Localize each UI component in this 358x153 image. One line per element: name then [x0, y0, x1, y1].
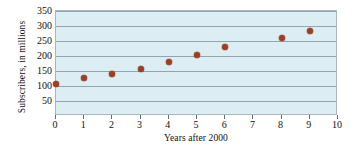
data-point: [222, 44, 228, 50]
x-tick-label: 8: [269, 119, 293, 130]
x-tick-mark: [196, 115, 197, 119]
gridline: [56, 11, 336, 12]
x-tick-mark: [309, 115, 310, 119]
x-axis-title: Years after 2000: [55, 133, 337, 143]
x-tick-label: 4: [156, 119, 180, 130]
data-point: [307, 28, 313, 34]
x-tick-mark: [337, 115, 338, 119]
x-tick-label: 5: [184, 119, 208, 130]
y-tick-label: 250: [22, 35, 52, 46]
gridline: [56, 71, 336, 72]
data-point: [166, 59, 172, 65]
plot-area: [55, 10, 337, 115]
gridline: [56, 41, 336, 42]
y-tick-label: 100: [22, 80, 52, 91]
x-tick-label: 9: [297, 119, 321, 130]
y-tick-label: 150: [22, 65, 52, 76]
data-point: [53, 81, 59, 87]
x-tick-mark: [140, 115, 141, 119]
data-point: [279, 35, 285, 41]
x-tick-mark: [168, 115, 169, 119]
x-tick-mark: [224, 115, 225, 119]
x-tick-label: 3: [128, 119, 152, 130]
x-tick-label: 7: [240, 119, 264, 130]
y-tick-label: 350: [22, 5, 52, 16]
x-tick-label: 0: [43, 119, 67, 130]
x-tick-mark: [83, 115, 84, 119]
y-tick-label: 50: [22, 95, 52, 106]
x-tick-mark: [111, 115, 112, 119]
x-tick-mark: [252, 115, 253, 119]
x-tick-label: 1: [71, 119, 95, 130]
x-tick-label: 2: [99, 119, 123, 130]
x-tick-mark: [55, 115, 56, 119]
data-point: [194, 52, 200, 58]
y-axis-ticks: 50100150200250300350: [18, 10, 52, 115]
scatter-chart: Subscribers, in millions 501001502002503…: [0, 0, 358, 153]
y-tick-label: 300: [22, 20, 52, 31]
x-tick-label: 10: [325, 119, 349, 130]
data-point: [109, 71, 115, 77]
x-tick-label: 6: [212, 119, 236, 130]
x-tick-mark: [281, 115, 282, 119]
gridline: [56, 86, 336, 87]
data-point: [138, 66, 144, 72]
gridline: [56, 26, 336, 27]
gridline: [56, 101, 336, 102]
y-tick-label: 200: [22, 50, 52, 61]
data-point: [81, 75, 87, 81]
